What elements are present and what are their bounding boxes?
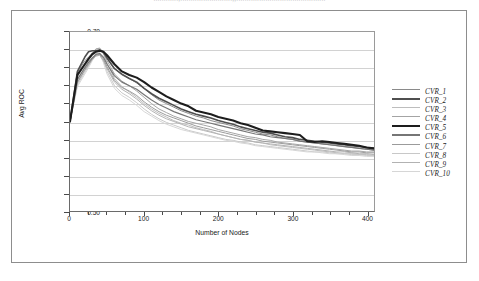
legend-label: CVR_3 [425,106,446,114]
x-tick-mark-minor [312,212,313,215]
x-tick-label: 400 [353,215,383,222]
series-line [70,53,374,150]
series-line [70,48,374,152]
legend-label: CVR_9 [425,161,446,169]
legend-item[interactable]: CVR_4 [392,115,468,124]
figure-root: ............,.........................,,… [0,0,479,281]
legend-line-icon [392,134,420,137]
x-tick-label: 100 [129,215,159,222]
legend-label: CVR_7 [425,143,446,151]
legend-line-icon [392,107,420,110]
legend: CVR_1CVR_2CVR_3CVR_4CVR_5CVR_6CVR_7CVR_8… [392,88,468,179]
x-tick-mark-minor [256,212,257,215]
legend-line-icon [392,144,420,147]
legend-line-icon [392,153,420,156]
x-axis-title: Number of Nodes [69,229,375,236]
legend-item[interactable]: CVR_8 [392,152,468,161]
x-tick-mark-minor [181,212,182,215]
series-layer [70,32,374,211]
x-tick-mark-minor [200,212,201,215]
x-tick-mark-minor [349,212,350,215]
x-tick-mark-minor [330,212,331,215]
plot-wrapper: Avg ROC 0.500.520.540.560.580.600.620.64… [0,0,479,281]
legend-label: CVR_6 [425,133,446,141]
legend-line-icon [392,116,420,119]
legend-line-icon [392,89,420,92]
legend-label: CVR_10 [425,170,450,178]
x-tick-label: 200 [203,215,233,222]
x-tick-label: 0 [54,215,84,222]
x-tick-mark-minor [106,212,107,215]
series-line [70,53,374,156]
legend-item[interactable]: CVR_5 [392,124,468,133]
legend-item[interactable]: CVR_3 [392,106,468,115]
x-tick-mark-minor [88,212,89,215]
legend-label: CVR_5 [425,124,446,132]
legend-item[interactable]: CVR_10 [392,170,468,179]
x-tick-mark-minor [237,212,238,215]
legend-label: CVR_2 [425,97,446,105]
legend-item[interactable]: CVR_7 [392,143,468,152]
legend-item[interactable]: CVR_6 [392,133,468,142]
legend-item[interactable]: CVR_9 [392,161,468,170]
x-tick-mark-minor [125,212,126,215]
legend-label: CVR_8 [425,152,446,160]
plot-area [69,31,375,212]
x-tick-mark-minor [162,212,163,215]
x-tick-mark-minor [274,212,275,215]
legend-item[interactable]: CVR_2 [392,97,468,106]
y-axis-title: Avg ROC [18,69,25,139]
legend-line-icon [392,98,420,101]
legend-line-icon [392,171,420,174]
legend-line-icon [392,125,420,128]
x-tick-label: 300 [278,215,308,222]
legend-item[interactable]: CVR_1 [392,88,468,97]
series-line [70,51,374,149]
legend-line-icon [392,162,420,165]
legend-label: CVR_4 [425,115,446,123]
legend-label: CVR_1 [425,88,446,96]
